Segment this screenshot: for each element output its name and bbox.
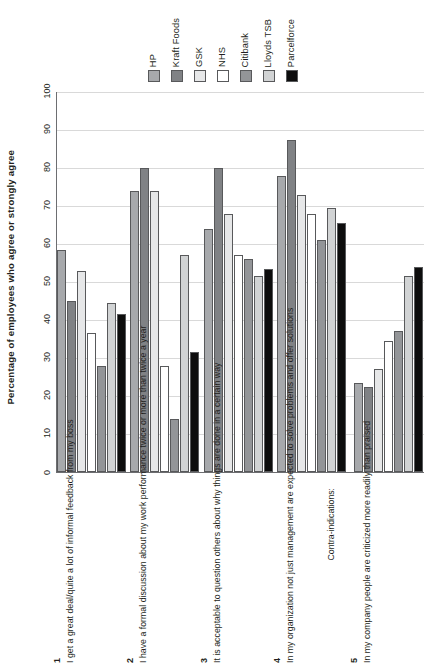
bar[interactable] [224, 214, 233, 472]
bar-groups [57, 92, 424, 472]
category-number: 1 [52, 658, 62, 663]
y-tick-label: 80 [43, 162, 52, 174]
bar[interactable] [394, 331, 403, 472]
legend-swatch-nhs [217, 70, 229, 82]
y-tick-label: 30 [43, 352, 52, 364]
category-text: In my organization not just management a… [285, 488, 296, 663]
category-number: 2 [125, 658, 135, 663]
legend-item-citibank: Citibank [240, 4, 252, 82]
chart-legend: HP Kraft Foods GSK NHS Citibank Lloyds T… [148, 4, 298, 82]
y-axis-ticks: 0102030405060708090100 [32, 92, 54, 472]
y-tick-label: 0 [43, 467, 52, 477]
bar[interactable] [384, 341, 393, 472]
legend-swatch-gsk [194, 70, 206, 82]
contra-indications-note: Contra-indications: [327, 488, 336, 560]
y-tick-label: 10 [43, 428, 52, 440]
legend-swatch-hp [148, 70, 160, 82]
legend-item-parcelforce: Parcelforce [286, 4, 298, 82]
legend-label: Lloyds TSB [264, 19, 274, 67]
category-number: 3 [199, 658, 209, 663]
y-tick-label: 60 [43, 238, 52, 250]
legend-label: HP [149, 54, 159, 67]
legend-item-lloyds-tsb: Lloyds TSB [263, 4, 275, 82]
x-category-label: 5In my company people are criticized mor… [349, 488, 373, 663]
bar[interactable] [180, 255, 189, 472]
bar[interactable] [374, 369, 383, 472]
legend-item-nhs: NHS [217, 4, 229, 82]
bar[interactable] [254, 276, 263, 472]
category-text: In my company people are criticized more… [362, 488, 373, 663]
y-tick-label: 50 [43, 276, 52, 288]
bar-group [57, 92, 127, 472]
y-tick-label: 20 [43, 390, 52, 402]
legend-item-gsk: GSK [194, 4, 206, 82]
bar-group [354, 92, 424, 472]
bar[interactable] [414, 267, 423, 472]
legend-label: Parcelforce [287, 19, 297, 67]
legend-label: Citibank [241, 33, 251, 67]
y-tick-label: 100 [43, 83, 52, 100]
bar[interactable] [87, 333, 96, 472]
bar[interactable] [327, 208, 336, 472]
x-axis-category-labels: 1I get a great deal/quite a lot of infor… [32, 488, 432, 668]
legend-swatch-citibank [240, 70, 252, 82]
bar[interactable] [244, 259, 253, 472]
y-tick-label: 90 [43, 124, 52, 136]
bar[interactable] [97, 366, 106, 472]
bar[interactable] [337, 223, 346, 472]
x-category-label: 1I get a great deal/quite a lot of infor… [52, 488, 76, 663]
y-axis-title: Percentage of employees who agree or str… [6, 150, 16, 405]
bar[interactable] [107, 303, 116, 472]
legend-swatch-kraft-foods [171, 70, 183, 82]
bar[interactable] [170, 419, 179, 472]
legend-swatch-lloyds-tsb [263, 70, 275, 82]
y-tick-label: 70 [43, 200, 52, 212]
bar[interactable] [190, 352, 199, 472]
legend-label: Kraft Foods [172, 18, 182, 67]
legend-item-hp: HP [148, 4, 160, 82]
legend-label: NHS [218, 47, 228, 67]
category-text: It is acceptable to question others abou… [212, 488, 223, 663]
bar[interactable] [297, 195, 306, 472]
bar[interactable] [317, 240, 326, 472]
plot-canvas [56, 92, 424, 473]
bar[interactable] [234, 255, 243, 472]
legend-swatch-parcelforce [286, 70, 298, 82]
x-category-label: 2I have a formal discussion about my wor… [125, 488, 149, 663]
x-category-label: 4In my organization not just management … [272, 488, 296, 663]
legend-label: GSK [195, 47, 205, 67]
legend-item-kraft-foods: Kraft Foods [171, 4, 183, 82]
bar[interactable] [307, 214, 316, 472]
x-category-label: 3It is acceptable to question others abo… [199, 488, 223, 663]
bar[interactable] [77, 271, 86, 472]
y-tick-label: 40 [43, 314, 52, 326]
bar[interactable] [160, 366, 169, 472]
bar[interactable] [404, 276, 413, 472]
category-number: 5 [349, 658, 359, 663]
bar[interactable] [150, 191, 159, 472]
category-text: I get a great deal/quite a lot of inform… [65, 488, 76, 663]
bar[interactable] [117, 314, 126, 472]
bar[interactable] [264, 269, 273, 472]
category-text: I have a formal discussion about my work… [138, 488, 149, 663]
category-number: 4 [272, 658, 282, 663]
